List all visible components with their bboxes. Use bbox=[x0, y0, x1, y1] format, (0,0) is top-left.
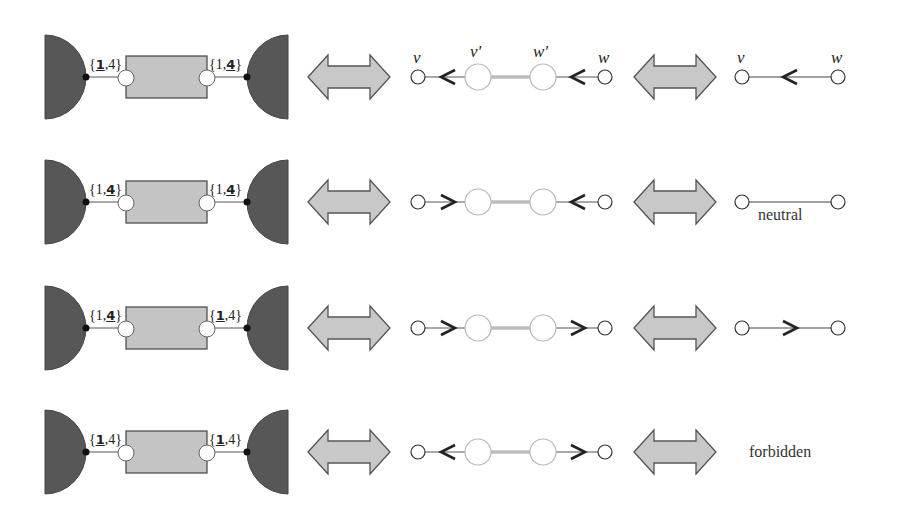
equivalence-arrow-icon bbox=[634, 430, 716, 474]
result-status-label: forbidden bbox=[749, 444, 811, 460]
equivalence-arrow-icon bbox=[308, 430, 390, 474]
left-port-circle bbox=[118, 445, 134, 461]
left-port-label: {1,4} bbox=[89, 433, 122, 447]
vertex-v-prime bbox=[465, 439, 491, 465]
emphasized-value: 1 bbox=[216, 432, 225, 447]
left-attach-dot bbox=[83, 449, 90, 456]
vertex-w-prime bbox=[530, 439, 556, 465]
gadget-orientation-diagram: {1,4}{1,4}vv'w'wvw neutral{1,4}{1,4} {1,… bbox=[0, 0, 899, 515]
vertex-w bbox=[598, 445, 612, 459]
diagram-row-4: forbidden{1,4}{1,4} bbox=[0, 0, 899, 515]
right-attach-dot bbox=[244, 449, 251, 456]
emphasized-value: 1 bbox=[96, 432, 105, 447]
set-label-part: } bbox=[115, 432, 122, 447]
set-label-part: { bbox=[209, 432, 216, 447]
set-label-part: { bbox=[89, 432, 96, 447]
set-label-part: } bbox=[235, 432, 242, 447]
right-port-label: {1,4} bbox=[209, 433, 242, 447]
left-half-disk bbox=[45, 410, 86, 494]
right-half-disk bbox=[247, 410, 288, 494]
gadget-box bbox=[126, 431, 207, 473]
vertex-v bbox=[411, 445, 425, 459]
right-port-circle bbox=[199, 445, 215, 461]
